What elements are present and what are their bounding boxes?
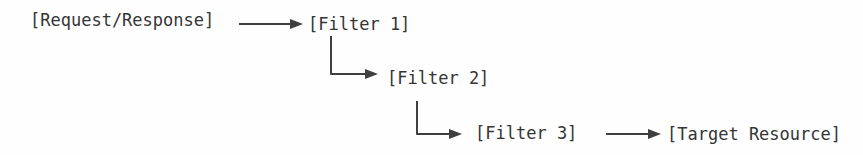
node-filter-1: [Filter 1]: [308, 13, 410, 35]
node-target-resource: [Target Resource]: [667, 123, 841, 145]
elbow-arrow-filter-2-to-filter-3: [417, 101, 450, 134]
filter-chain-diagram: [Request/Response] [Filter 1] [Filter 2]…: [0, 0, 863, 155]
elbow-arrow-filter-1-to-filter-2: [331, 36, 366, 74]
node-filter-3: [Filter 3]: [475, 122, 577, 144]
node-request-response: [Request/Response]: [30, 9, 214, 31]
node-filter-2: [Filter 2]: [387, 67, 489, 89]
